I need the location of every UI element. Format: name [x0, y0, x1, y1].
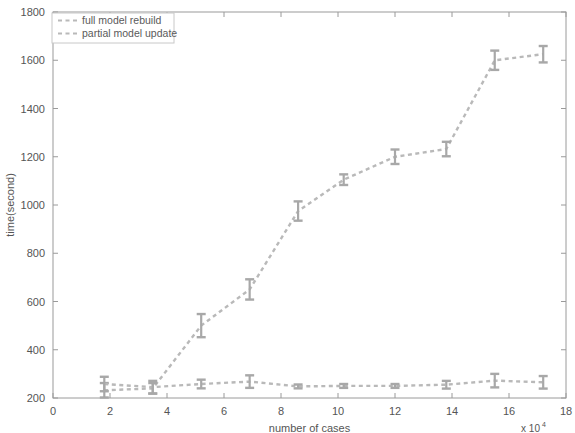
legend-label-0: full model rebuild [82, 14, 162, 26]
x-axis-tick-label: 12 [389, 405, 401, 417]
data-point-errorbar [339, 174, 348, 185]
y-axis-tick-label: 200 [27, 392, 45, 404]
data-point-errorbar [490, 374, 499, 388]
x-axis-tick-label: 6 [221, 405, 227, 417]
x-axis-tick-label: 4 [164, 405, 170, 417]
x-axis-multiplier: x 10 [521, 423, 540, 433]
x-axis-title: number of cases [269, 422, 351, 433]
x-axis-multiplier-exponent: 4 [542, 421, 546, 428]
data-point-errorbar [391, 150, 400, 164]
x-axis-tick-label: 16 [503, 405, 515, 417]
data-point-errorbar [539, 46, 548, 62]
data-point-errorbar [245, 375, 254, 388]
x-axis-tick-label: 10 [332, 405, 344, 417]
series-line-1 [104, 381, 543, 388]
data-point-errorbar [197, 314, 206, 337]
y-axis-tick-label: 1200 [21, 151, 45, 163]
x-axis-tick-label: 2 [107, 405, 113, 417]
x-axis-tick-label: 0 [50, 405, 56, 417]
chart-figure: 0246810121416182004006008001000120014001… [0, 0, 575, 433]
y-axis-tick-label: 600 [27, 296, 45, 308]
x-axis-tick-label: 18 [560, 405, 572, 417]
y-axis-tick-label: 1600 [21, 54, 45, 66]
y-axis-tick-label: 800 [27, 247, 45, 259]
x-axis-tick-label: 14 [446, 405, 458, 417]
y-axis-tick-label: 400 [27, 344, 45, 356]
y-axis-tick-label: 1000 [21, 199, 45, 211]
series-line-0 [104, 54, 543, 390]
data-point-errorbar [442, 142, 451, 156]
y-axis-tick-label: 1400 [21, 103, 45, 115]
chart-plot-area: 0246810121416182004006008001000120014001… [0, 0, 575, 433]
y-axis-title: time(second) [4, 173, 16, 237]
y-axis-tick-label: 1800 [21, 6, 45, 18]
legend-label-1: partial model update [82, 27, 177, 39]
x-axis-tick-label: 8 [278, 405, 284, 417]
